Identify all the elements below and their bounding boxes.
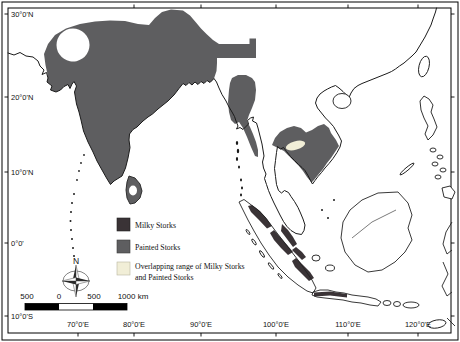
legend-label-overlap-line1: Overlapping range of Milky Storks bbox=[135, 262, 245, 271]
lat-label: 10°0'S bbox=[11, 312, 33, 321]
legend-label-painted: Painted Storks bbox=[135, 243, 180, 252]
island-speck bbox=[238, 165, 240, 168]
island-speck bbox=[240, 179, 242, 182]
lon-label: 100°0'E bbox=[263, 320, 289, 329]
island-speck bbox=[327, 217, 329, 219]
visayas-island bbox=[440, 168, 446, 172]
island-speck bbox=[333, 199, 335, 201]
lon-label: 70°0'E bbox=[67, 320, 89, 329]
atoll-speck bbox=[72, 247, 74, 249]
legend-swatch-overlap bbox=[117, 262, 130, 275]
atoll-speck bbox=[78, 170, 80, 172]
lat-label: 30°0'N bbox=[11, 10, 33, 19]
island-speck bbox=[236, 157, 238, 161]
sumbawa-island bbox=[403, 302, 419, 308]
bangka-island bbox=[312, 255, 320, 261]
legend-swatch-milky bbox=[117, 218, 130, 231]
mindanao-island bbox=[442, 186, 455, 199]
atoll-speck bbox=[80, 162, 82, 164]
lat-label: 0°0' bbox=[11, 239, 24, 248]
legend-label-milky: Milky Storks bbox=[135, 221, 176, 230]
sri-lanka-gap bbox=[129, 186, 137, 196]
island-speck bbox=[241, 187, 243, 190]
atoll-speck bbox=[71, 238, 73, 240]
atoll-speck bbox=[83, 154, 85, 156]
hainan-island bbox=[333, 94, 351, 109]
island-speck bbox=[236, 141, 238, 145]
lon-label: 120°0'E bbox=[405, 320, 431, 329]
lombok-island bbox=[394, 302, 401, 307]
legend-label-overlap-line2: and Painted Storks bbox=[135, 273, 193, 282]
north-label: N bbox=[73, 256, 79, 266]
scale-label: 1000 km bbox=[118, 292, 149, 301]
atoll-speck bbox=[76, 179, 78, 181]
visayas-island bbox=[430, 148, 436, 152]
island-speck bbox=[321, 209, 323, 211]
lon-label: 80°0'E bbox=[123, 320, 145, 329]
scale-label: 500 bbox=[20, 292, 34, 301]
visayas-island bbox=[435, 175, 441, 179]
scale-bar-segment bbox=[93, 304, 127, 311]
lat-label: 10°0'N bbox=[11, 168, 33, 177]
legend-swatch-painted bbox=[117, 240, 130, 253]
bali-island bbox=[383, 301, 391, 306]
atoll-speck bbox=[71, 202, 73, 204]
lon-label: 90°0'E bbox=[190, 320, 212, 329]
atoll-speck bbox=[70, 220, 72, 222]
lat-label: 20°0'N bbox=[11, 93, 33, 102]
atoll-speck bbox=[70, 229, 72, 231]
stork-distribution-map-figure: 30°0'N 20°0'N 10°0'N 0°0' 10°0'S 70°0'E … bbox=[0, 0, 460, 342]
island-speck bbox=[240, 194, 242, 197]
map-canvas: 30°0'N 20°0'N 10°0'N 0°0' 10°0'S 70°0'E … bbox=[0, 0, 460, 342]
scale-label: 500 bbox=[87, 292, 101, 301]
atoll-speck bbox=[73, 193, 75, 195]
island-speck bbox=[237, 149, 239, 153]
lon-label: 110°0'E bbox=[335, 320, 361, 329]
scale-bar-segment bbox=[25, 304, 59, 311]
visayas-island bbox=[437, 155, 443, 159]
visayas-island bbox=[432, 162, 438, 166]
scale-label: 0 bbox=[57, 292, 62, 301]
belitung-island bbox=[326, 265, 335, 271]
atoll-speck bbox=[70, 211, 72, 213]
